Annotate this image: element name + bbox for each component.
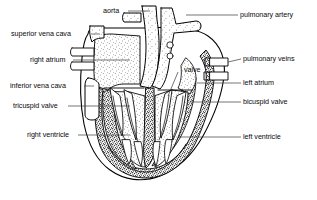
label-tricuspid-valve: tricuspid valve [13,101,58,110]
right-atrium-cavity [94,34,140,90]
label-pulmonary-artery: pulmonary artery [240,10,293,19]
label-right-atrium: right atrium [30,55,65,64]
vein-stub-lower [71,62,95,70]
aortic-branch-left [123,13,142,22]
pulmonary-vein-lower [210,72,228,80]
label-valve: valve [184,65,201,74]
pulmonary-vein-upper [210,58,228,66]
heart-body-group [71,6,229,180]
label-pulmonary-veins: pulmonary veins [243,54,295,63]
label-left-ventricle: left ventricle [243,132,281,141]
heart-diagram-figure: aorta pulmonary artery superior vena cav… [0,0,317,200]
label-bicuspid-valve: bicuspid valve [243,97,287,106]
label-left-atrium: left atrium [243,78,274,87]
inferior-vena-cava-vessel [85,78,99,120]
pulmonary-valve-cusp-2 [167,53,173,59]
vein-stub-upper [71,48,95,56]
label-right-ventricle: right ventricle [27,130,69,139]
pulmonary-valve-cusp-1 [167,42,173,48]
leader-pulmonary-veins [228,59,241,62]
label-superior-vena-cava: superior vena cava [11,29,71,38]
label-inferior-vena-cava: inferior vena cava [10,81,66,90]
label-aorta: aorta [103,6,119,15]
